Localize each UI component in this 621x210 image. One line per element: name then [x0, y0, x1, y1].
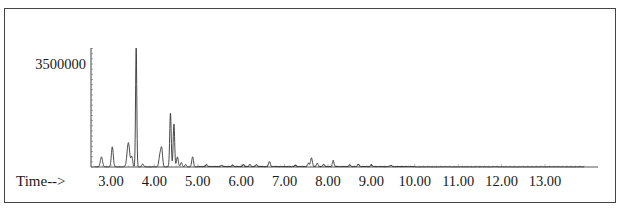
x-tick-label: 13.00 [529, 173, 562, 189]
x-tick-label: 5.00 [185, 173, 210, 189]
x-tick-label: 7.00 [272, 173, 297, 189]
y-axis [91, 48, 93, 167]
x-tick-label: 10.00 [398, 173, 431, 189]
x-tick-label: 3.00 [98, 173, 123, 189]
x-tick-labels: 3.004.005.006.007.008.009.0010.0011.0012… [98, 173, 561, 189]
tic-trace [95, 48, 585, 167]
x-tick-label: 12.00 [485, 173, 518, 189]
x-tick-label: 9.00 [359, 173, 384, 189]
x-tick-label: 11.00 [442, 173, 474, 189]
x-axis-label: Time--> [16, 173, 66, 189]
x-tick-label: 4.00 [142, 173, 167, 189]
y-tick-label: 3500000 [35, 56, 86, 72]
chromatogram-chart: 3500000 Time--> 3.004.005.006.007.008.00… [0, 0, 621, 210]
x-tick-label: 8.00 [315, 173, 340, 189]
x-tick-label: 6.00 [229, 173, 254, 189]
